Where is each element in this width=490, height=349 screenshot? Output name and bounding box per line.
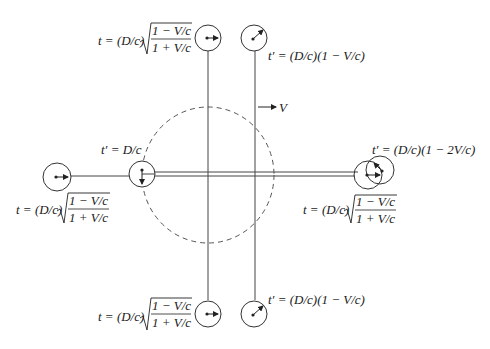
label-mid-left-upper: t′ = D/c (101, 142, 142, 157)
clock-far-right (354, 156, 394, 189)
label-top-right: t′ = (D/c)(1 − V/c) (268, 48, 365, 63)
svg-text:1 − V/c: 1 − V/c (152, 23, 191, 38)
label-top-left: t = (D/c) 1 − V/c 1 + V/c (98, 23, 192, 55)
clock-far-left (43, 163, 71, 191)
label-mid-right-upper: t′ = (D/c)(1 − 2V/c) (372, 142, 475, 157)
svg-text:1 + V/c: 1 + V/c (356, 211, 395, 226)
label-bottom-left: t = (D/c) 1 − V/c 1 + V/c (98, 298, 192, 330)
svg-text:t = (D/c): t = (D/c) (98, 33, 144, 48)
light-clock-diagram: V (0, 0, 490, 349)
clock-bottom-left (195, 301, 221, 327)
clock-mid-left (129, 161, 155, 187)
velocity-label: V (279, 100, 289, 115)
clock-top-left (195, 25, 221, 51)
label-mid-right-lower: t = (D/c) 1 − V/c 1 + V/c (303, 194, 397, 226)
svg-text:1 + V/c: 1 + V/c (152, 40, 191, 55)
svg-text:1 + V/c: 1 + V/c (152, 315, 191, 330)
svg-text:t = (D/c): t = (D/c) (98, 309, 144, 324)
svg-text:t = (D/c): t = (D/c) (303, 202, 349, 217)
svg-text:1 − V/c: 1 − V/c (69, 193, 108, 208)
svg-text:1 − V/c: 1 − V/c (152, 298, 191, 313)
label-mid-left-lower: t = (D/c) 1 − V/c 1 + V/c (16, 193, 110, 225)
svg-text:t = (D/c): t = (D/c) (16, 202, 62, 217)
clock-top-right (241, 25, 267, 51)
svg-text:1 − V/c: 1 − V/c (356, 194, 395, 209)
label-bottom-right: t′ = (D/c)(1 − V/c) (268, 292, 365, 307)
clock-bottom-right (241, 301, 267, 327)
svg-text:1 + V/c: 1 + V/c (69, 210, 108, 225)
